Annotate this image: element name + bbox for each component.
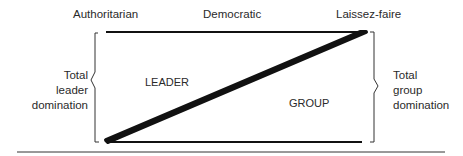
diagram-graphics [0, 0, 463, 156]
right-brace-icon [370, 32, 378, 142]
left-brace-icon [91, 33, 99, 142]
diagonal-divider [106, 32, 366, 142]
